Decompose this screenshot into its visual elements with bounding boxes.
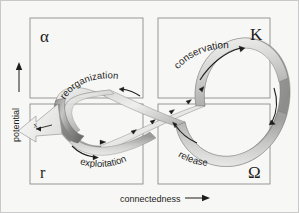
quadrant-label-omega: Ω bbox=[248, 163, 261, 182]
adaptive-cycle-diagram: α K r Ω potential connectedness reorgani… bbox=[0, 0, 299, 213]
x-axis-label: connectedness bbox=[120, 194, 181, 204]
y-axis-label: potential bbox=[11, 108, 21, 142]
quadrant-label-r: r bbox=[40, 164, 46, 181]
quadrant-label-alpha: α bbox=[40, 27, 49, 46]
adaptive-cycle-figure: α K r Ω potential connectedness reorgani… bbox=[0, 0, 299, 213]
quadrant-label-K: K bbox=[250, 25, 263, 44]
